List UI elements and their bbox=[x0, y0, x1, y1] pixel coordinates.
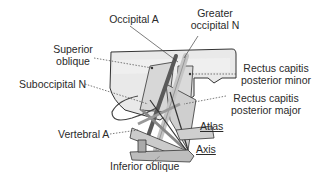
label-superior-oblique-line1: Superior bbox=[50, 43, 96, 55]
label-axis: Axis bbox=[196, 143, 216, 155]
label-atlas: Atlas bbox=[200, 120, 223, 132]
label-rectus-major-line2: posterior major bbox=[226, 104, 306, 116]
label-superior-oblique-line2: oblique bbox=[50, 55, 96, 67]
label-inferior-oblique: Inferior oblique bbox=[110, 160, 179, 172]
label-greater-occipital-n-line1: Greater bbox=[180, 7, 250, 19]
vertebral-artery-segment bbox=[138, 140, 146, 152]
label-occipital-a: Occipital A bbox=[104, 13, 164, 25]
label-rectus-major-line1: Rectus capitis bbox=[226, 92, 306, 104]
label-vertebral-a: Vertebral A bbox=[58, 128, 109, 140]
suboccipital-diagram: Occipital A Greater occipital N Superior… bbox=[0, 0, 318, 177]
label-rectus-minor-line1: Rectus capitis bbox=[236, 62, 316, 74]
label-rectus-minor-line2: posterior minor bbox=[236, 74, 316, 86]
label-greater-occipital-n-line2: occipital N bbox=[180, 19, 250, 31]
label-suboccipital-n: Suboccipital N bbox=[19, 78, 86, 90]
